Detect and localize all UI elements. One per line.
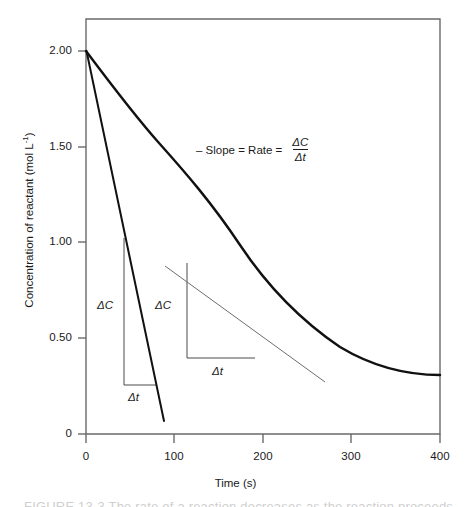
figure-container: 2.00 1.50 1.00 0.50 0 0 100 200 300 400 …: [0, 0, 471, 507]
y-axis-label-suffix: ): [23, 132, 35, 136]
rate-formula-fraction: ΔC Δt: [290, 136, 310, 163]
x-axis-label: Time (s): [0, 477, 471, 489]
rate-formula-denominator: Δt: [293, 149, 308, 163]
y-axis-label-main: Concentration of reactant (mol L: [23, 143, 35, 307]
y-axis-label: Concentration of reactant (mol L-1): [19, 70, 39, 370]
delta-c-label-instantaneous: ΔC: [155, 299, 171, 311]
rate-formula-annotation: – Slope = Rate = ΔC Δt: [196, 136, 310, 163]
y-tick-label-2.00: 2.00: [28, 44, 72, 56]
y-axis-label-text: Concentration of reactant (mol L-1): [23, 132, 35, 307]
x-tick-label-400: 400: [420, 450, 460, 462]
initial-rate-tangent: [87, 51, 165, 421]
x-tick-label-100: 100: [154, 450, 194, 462]
y-axis-ticks: [78, 51, 86, 434]
x-tick-label-200: 200: [243, 450, 283, 462]
x-axis-ticks: [86, 434, 440, 443]
x-tick-label-300: 300: [331, 450, 371, 462]
x-tick-label-0: 0: [66, 450, 106, 462]
instantaneous-rate-triangle: [187, 263, 255, 358]
delta-t-label-instantaneous: Δt: [212, 365, 223, 377]
rate-formula-lead: – Slope = Rate =: [196, 144, 282, 156]
plot-frame: [86, 19, 440, 434]
delta-t-label-initial: Δt: [128, 391, 139, 403]
y-axis-label-superscript: -1: [21, 136, 30, 143]
bottom-caption-clipped: FIGURE 13-3 The rate of a reaction decre…: [24, 499, 454, 507]
delta-c-label-initial: ΔC: [97, 299, 113, 311]
concentration-decay-curve: [86, 51, 440, 375]
y-tick-label-0: 0: [28, 427, 72, 439]
rate-formula-numerator: ΔC: [290, 136, 310, 149]
instantaneous-rate-tangent: [165, 266, 325, 382]
